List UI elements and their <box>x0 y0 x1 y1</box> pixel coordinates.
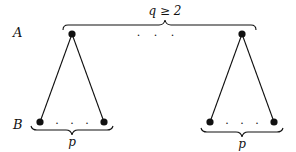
node-b2 <box>100 118 107 125</box>
row-label-a: A <box>12 25 22 40</box>
bottom-right-brace <box>201 128 283 137</box>
bottom-left-brace-label: p <box>68 135 76 149</box>
bottom-left-brace <box>31 126 113 135</box>
node-b3 <box>206 118 213 125</box>
bottom-right-ellipsis: . . . <box>225 114 262 127</box>
node-b1 <box>36 118 43 125</box>
edge-a2-b3 <box>210 34 242 122</box>
top-ellipsis: . . . <box>137 26 179 39</box>
bottom-left-ellipsis: . . . <box>55 114 92 127</box>
node-b4 <box>270 118 277 125</box>
top-brace-label: q ≥ 2 <box>149 4 182 18</box>
node-a2 <box>238 30 245 37</box>
row-label-b: B <box>12 117 23 132</box>
edge-a2-b4 <box>242 34 274 122</box>
bottom-right-brace-label: p <box>238 137 246 151</box>
edge-a1-b1 <box>40 34 72 122</box>
tree-diagram: A B q ≥ 2 . . . . . . . . . p p <box>0 0 296 152</box>
node-a1 <box>68 30 75 37</box>
edge-a1-b2 <box>72 34 104 122</box>
